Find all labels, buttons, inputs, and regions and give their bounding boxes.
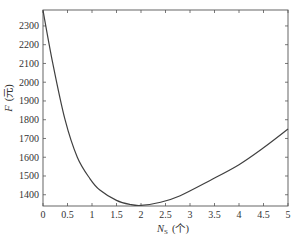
y-tick-label: 1600: [19, 152, 39, 163]
x-tick-label: 1.5: [110, 209, 123, 220]
y-tick-label: 2000: [19, 77, 39, 88]
x-tick-label: 4.5: [257, 209, 270, 220]
x-tick-label: 3: [188, 209, 193, 220]
x-label-sub: S: [164, 228, 168, 236]
x-tick-label: 5: [286, 209, 291, 220]
x-axis-label: NS(个): [156, 223, 189, 236]
x-tick-label: 0.5: [61, 209, 74, 220]
y-tick-label: 1500: [19, 170, 39, 181]
y-axis: 1400150016001700180019002000210022002300: [19, 20, 288, 200]
x-axis: 00.511.522.533.544.55: [41, 10, 291, 220]
svg-text:F(元): F(元): [3, 84, 15, 113]
line-chart: 1400150016001700180019002000210022002300…: [0, 0, 299, 238]
x-label-unit: (个): [172, 223, 189, 235]
svg-text:NS(个): NS(个): [156, 223, 189, 236]
x-tick-label: 2.5: [159, 209, 172, 220]
y-tick-label: 1700: [19, 133, 39, 144]
y-tick-label: 2100: [19, 58, 39, 69]
plot-frame: [43, 10, 288, 206]
y-tick-label: 1400: [19, 189, 39, 200]
y-axis-label: F(元): [3, 84, 15, 113]
x-tick-label: 3.5: [208, 209, 221, 220]
x-tick-label: 2: [139, 209, 144, 220]
y-tick-label: 1800: [19, 114, 39, 125]
y-tick-label: 1900: [19, 95, 39, 106]
plot-border: [43, 10, 288, 206]
cost-curve: [43, 10, 288, 205]
x-tick-label: 1: [90, 209, 95, 220]
x-tick-label: 4: [237, 209, 242, 220]
y-label-unit: (元): [3, 84, 15, 101]
x-tick-label: 0: [41, 209, 46, 220]
y-tick-label: 2300: [19, 20, 39, 31]
y-tick-label: 2200: [19, 39, 39, 50]
y-label-main: F: [3, 105, 14, 113]
